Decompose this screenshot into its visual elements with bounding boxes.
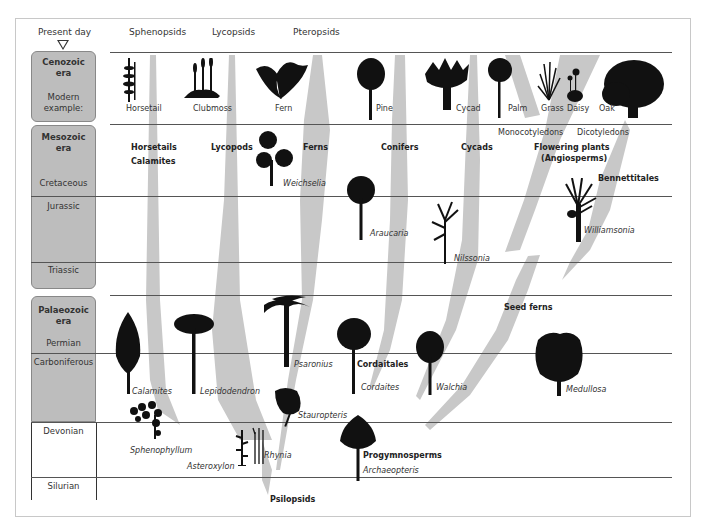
clade-flowering-2: (Angiosperms) <box>541 154 607 163</box>
grass-icon <box>536 62 562 102</box>
species-calamites: Calamites <box>132 387 172 396</box>
clade-seed-ferns: Seed ferns <box>504 303 552 312</box>
era-title-cenozoic-2: era <box>31 68 96 78</box>
clade-cycads: Cycads <box>461 143 493 152</box>
line-mesozoic-base <box>110 295 672 296</box>
present-day-marker-inner <box>59 41 67 48</box>
clade-psilopsids: Psilopsids <box>270 495 315 504</box>
modern-oak: Oak <box>599 104 615 113</box>
era-title-palaeozoic-1: Palaeozoic <box>31 305 96 315</box>
era-title-palaeozoic-2: era <box>31 316 96 326</box>
clade-conifers: Conifers <box>381 143 418 152</box>
period-carboniferous: Carboniferous <box>31 357 96 367</box>
modern-label-2: example: <box>31 103 96 113</box>
column-lycopsids: Lycopsids <box>212 27 255 37</box>
modern-horsetail: Horsetail <box>126 104 162 113</box>
period-cretaceous: Cretaceous <box>31 178 96 188</box>
species-williamsonia: Williamsonia <box>584 226 635 235</box>
period-jurassic: Jurassic <box>31 201 96 211</box>
fern-icon <box>254 57 310 103</box>
modern-pine: Pine <box>376 104 393 113</box>
era-title-mesozoic-2: era <box>31 143 96 153</box>
species-nilssonia: Nilssonia <box>454 254 490 263</box>
clubmoss-icon <box>182 58 222 100</box>
species-medullosa: Medullosa <box>566 385 606 394</box>
modern-grass: Grass <box>541 104 564 113</box>
clade-flowering-1: Flowering plants <box>534 143 610 152</box>
daisy-icon <box>566 68 584 102</box>
asteroxylon-icon <box>234 428 250 466</box>
clade-calamites-group: Calamites <box>131 157 176 166</box>
dicotyledons-label: Dicotyledons <box>577 128 629 137</box>
horsetail-icon <box>122 58 138 102</box>
period-col-right <box>96 422 97 500</box>
monocotyledons-label: Monocotyledons <box>498 128 563 137</box>
column-pteropsids: Pteropsids <box>293 27 340 37</box>
line-jurassic-base <box>31 262 672 263</box>
modern-cycad: Cycad <box>456 104 481 113</box>
clade-ferns: Ferns <box>303 143 328 152</box>
calamites-icon <box>114 312 142 394</box>
stauropteris-icon <box>273 387 305 427</box>
modern-clubmoss: Clubmoss <box>193 104 232 113</box>
species-archaeopteris: Archaeopteris <box>363 466 419 475</box>
era-title-cenozoic-1: Cenozoic <box>31 57 96 67</box>
psaronius-icon <box>262 295 312 367</box>
present-day-label: Present day <box>38 27 91 37</box>
lepidodendron-icon <box>172 312 216 394</box>
species-asteroxylon: Asteroxylon <box>187 462 235 471</box>
cycad-icon <box>423 58 471 110</box>
line-present <box>110 52 672 53</box>
sphenophyllum-icon <box>126 401 166 441</box>
period-silurian: Silurian <box>31 481 96 491</box>
period-triassic: Triassic <box>31 265 96 275</box>
line-cenozoic-base <box>110 124 672 125</box>
species-araucaria: Araucaria <box>370 229 408 238</box>
era-title-mesozoic-1: Mesozoic <box>31 132 96 142</box>
period-col-left <box>31 422 32 500</box>
modern-daisy: Daisy <box>567 104 589 113</box>
period-permian: Permian <box>31 338 96 348</box>
modern-label-1: Modern <box>31 92 96 102</box>
modern-palm: Palm <box>508 104 527 113</box>
species-sphenophyllum: Sphenophyllum <box>130 446 192 455</box>
period-devonian: Devonian <box>31 426 96 436</box>
species-walchia: Walchia <box>436 383 467 392</box>
species-cordaites: Cordaites <box>361 383 399 392</box>
species-weichselia: Weichselia <box>283 179 326 188</box>
clade-lycopods: Lycopods <box>211 143 253 152</box>
species-psaronius: Psaronius <box>294 360 333 369</box>
column-sphenopsids: Sphenopsids <box>129 27 186 37</box>
modern-fern: Fern <box>275 104 292 113</box>
species-rhynia: Rhynia <box>264 451 292 460</box>
clade-horsetails: Horsetails <box>131 143 177 152</box>
clade-bennettitales: Bennettitales <box>598 174 659 183</box>
species-lepidodendron: Lepidodendron <box>200 387 260 396</box>
